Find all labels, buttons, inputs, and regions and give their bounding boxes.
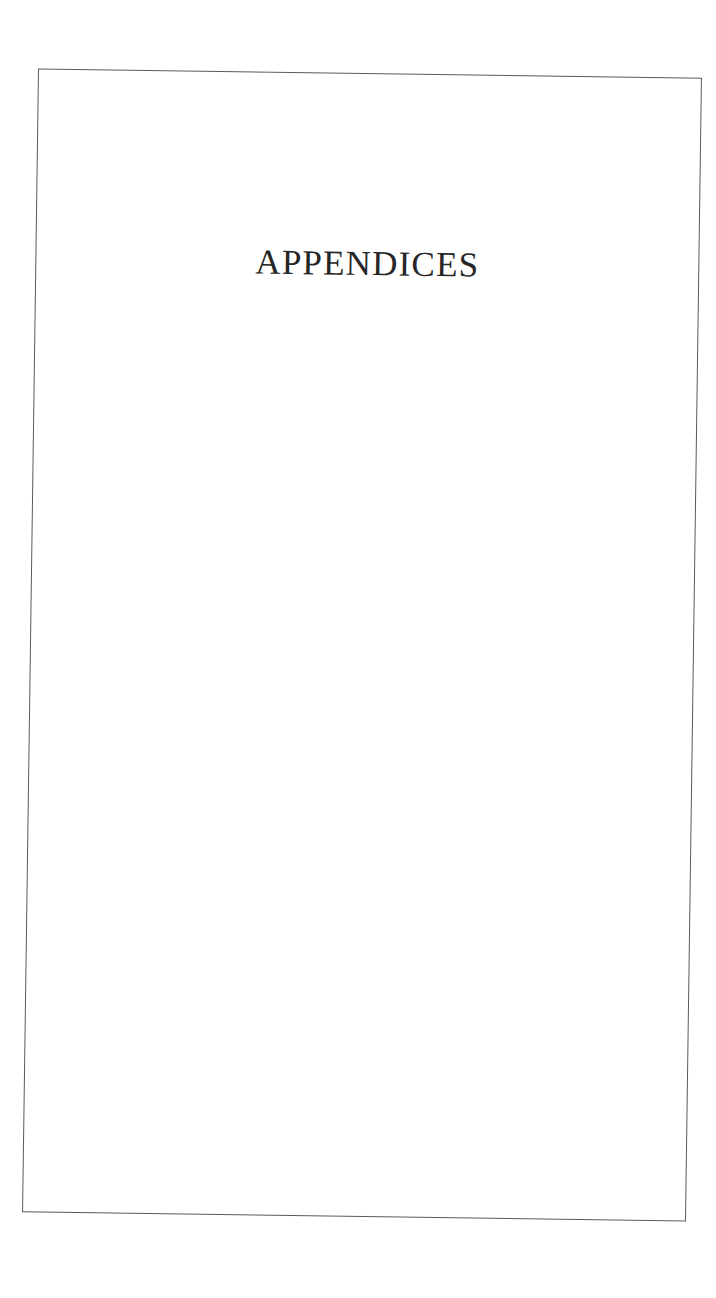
page-frame: APPENDICES <box>22 68 702 1221</box>
section-title: APPENDICES <box>36 241 698 285</box>
